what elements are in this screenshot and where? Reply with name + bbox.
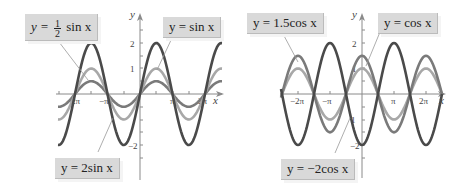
x-tick-neg2pi: −2π bbox=[290, 96, 305, 106]
x-tick-2pi: 2π bbox=[419, 96, 429, 106]
y-tick-neg2: −2 bbox=[128, 141, 138, 151]
label-cos: y = cos x bbox=[378, 13, 438, 34]
label-sin: y = sin x bbox=[163, 17, 221, 38]
leader-cos bbox=[366, 32, 380, 66]
x-tick-pi: π bbox=[391, 96, 396, 106]
y-tick-2: 2 bbox=[130, 39, 135, 49]
leader-1-5cos bbox=[282, 32, 298, 62]
label-neg2cos: y = −2cos x bbox=[281, 159, 355, 180]
y-tick-2: 2 bbox=[352, 39, 357, 49]
label-half-sin: y = 12 sin x bbox=[25, 14, 98, 41]
leader-2sin bbox=[98, 118, 113, 152]
x-tick-negpi: −π bbox=[322, 96, 332, 106]
y-tick-1: 1 bbox=[130, 64, 135, 74]
label-1-5cos: y = 1.5cos x bbox=[247, 13, 324, 34]
fraction-denominator: 2 bbox=[54, 29, 61, 38]
y-axis-label: y bbox=[129, 8, 135, 20]
label-half-sin-prefix: y = bbox=[31, 19, 52, 34]
y-axis-label: y bbox=[351, 8, 357, 20]
fraction: 12 bbox=[54, 19, 61, 38]
leader-sin bbox=[157, 38, 172, 70]
x-axis-label: x bbox=[212, 94, 218, 106]
label-half-sin-suffix: sin x bbox=[63, 19, 91, 34]
label-2sin: y = 2sin x bbox=[55, 158, 120, 179]
